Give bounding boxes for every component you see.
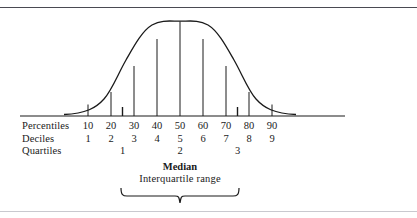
decile-value: 1 — [85, 133, 90, 144]
decile-value: 8 — [246, 133, 251, 144]
percentile-value: 90 — [267, 120, 278, 131]
quartile-value: 3 — [235, 145, 240, 156]
percentile-value: 80 — [244, 120, 255, 131]
percentile-value: 10 — [83, 120, 94, 131]
row-label-percentiles: Percentiles — [22, 120, 69, 131]
row-label-deciles: Deciles — [22, 133, 54, 144]
percentile-value: 60 — [198, 120, 209, 131]
decile-value: 9 — [269, 133, 274, 144]
row-label-quartiles: Quartiles — [22, 145, 61, 156]
decile-value: 5 — [177, 133, 182, 144]
percentile-value: 20 — [106, 120, 117, 131]
decile-value: 6 — [200, 133, 205, 144]
median-annotation: Median — [163, 161, 197, 172]
scale-labels: Percentiles Deciles Quartiles 10 20 30 4… — [0, 0, 417, 218]
interquartile-range-annotation: Interquartile range — [139, 173, 221, 184]
decile-value: 4 — [154, 133, 159, 144]
quartile-value: 1 — [120, 145, 125, 156]
percentile-value: 30 — [129, 120, 140, 131]
quartile-value: 2 — [177, 145, 182, 156]
decile-value: 7 — [223, 133, 228, 144]
percentile-value: 70 — [221, 120, 232, 131]
decile-value: 2 — [108, 133, 113, 144]
percentile-value: 40 — [152, 120, 163, 131]
percentile-value: 50 — [175, 120, 186, 131]
decile-value: 3 — [131, 133, 136, 144]
